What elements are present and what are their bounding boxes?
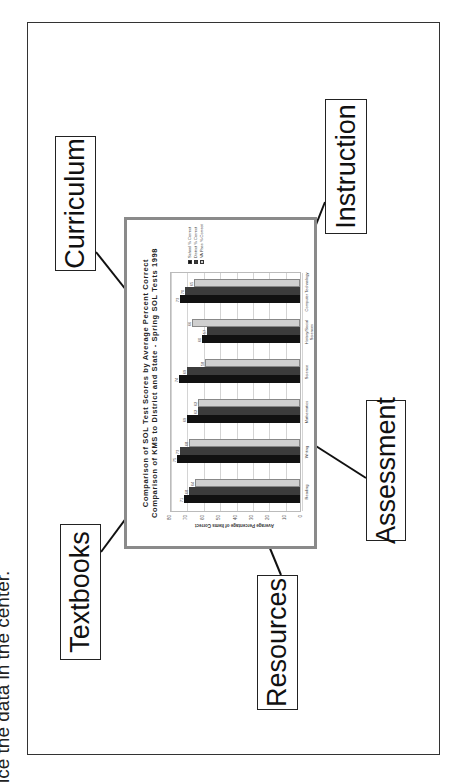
bar-value-label: 62 bbox=[193, 398, 198, 410]
legend-swatch bbox=[188, 260, 192, 264]
gridline bbox=[237, 273, 238, 511]
gridline bbox=[269, 273, 270, 511]
sol-chart: Comparison of SOL Test Scores by Average… bbox=[124, 217, 317, 549]
gridline bbox=[204, 273, 205, 511]
gridline bbox=[220, 273, 221, 511]
category-label: Writing bbox=[304, 432, 309, 472]
textbooks-label: Textbooks bbox=[65, 531, 96, 653]
bar bbox=[205, 359, 300, 367]
bar-value-label: 66 bbox=[187, 318, 192, 330]
bar bbox=[189, 439, 300, 447]
bar-value-label: 74 bbox=[174, 374, 179, 386]
gridline bbox=[171, 273, 172, 511]
bar bbox=[207, 327, 300, 335]
bar-value-label: 57 bbox=[202, 326, 207, 338]
bar bbox=[187, 415, 300, 423]
bar bbox=[195, 479, 300, 487]
bar bbox=[180, 295, 300, 303]
gridline bbox=[302, 273, 303, 511]
bar-value-label: 69 bbox=[182, 414, 187, 426]
chart-title: Comparison of SOL Test Scores by Average… bbox=[141, 220, 150, 546]
bar bbox=[185, 287, 300, 295]
bar-value-label: 68 bbox=[184, 438, 189, 450]
y-tick-label: 50 bbox=[216, 515, 221, 529]
bar-value-label: 73 bbox=[175, 446, 180, 458]
legend-swatch bbox=[200, 260, 204, 264]
category-label: Computer Technology bbox=[304, 272, 309, 312]
slide: ice the data in the center. Curriculum I… bbox=[0, 0, 462, 783]
legend-label: VA Pass % Correct bbox=[199, 224, 205, 258]
bar-value-label: 58 bbox=[200, 358, 205, 370]
resources-box: Resources bbox=[257, 575, 298, 710]
category-label: Science bbox=[304, 352, 309, 392]
chart-subtitle: Comparison of KMS to District and State … bbox=[150, 220, 159, 546]
assessment-label: Assessment bbox=[371, 397, 402, 544]
y-tick-label: 80 bbox=[167, 515, 172, 529]
bar-value-label: 64 bbox=[190, 478, 195, 490]
y-tick-label: 60 bbox=[200, 515, 205, 529]
category-label: History/Social Sciences bbox=[304, 312, 314, 352]
textbooks-box: Textbooks bbox=[60, 524, 101, 660]
bar bbox=[198, 407, 300, 415]
curriculum-label: Curriculum bbox=[60, 138, 91, 269]
y-tick-label: 30 bbox=[249, 515, 254, 529]
category-label: Reading bbox=[304, 472, 309, 512]
gridline bbox=[253, 273, 254, 511]
curriculum-box: Curriculum bbox=[55, 136, 96, 271]
bar-value-label: 65 bbox=[189, 278, 194, 290]
legend-item: VA Pass % Correct bbox=[199, 224, 205, 264]
y-tick-label: 40 bbox=[233, 515, 238, 529]
bar-value-label: 70 bbox=[180, 286, 185, 298]
resources-label: Resources bbox=[262, 578, 293, 707]
bar bbox=[198, 399, 300, 407]
gridline bbox=[286, 273, 287, 511]
y-tick-label: 70 bbox=[183, 515, 188, 529]
bar bbox=[180, 447, 300, 455]
bar bbox=[194, 279, 300, 287]
chart-legend: School % CorrectDistrict % CorrectVA Pas… bbox=[187, 224, 205, 264]
bar-value-label: 68 bbox=[184, 486, 189, 498]
assessment-box: Assessment bbox=[366, 400, 406, 541]
bar bbox=[179, 375, 300, 383]
gridline bbox=[187, 273, 188, 511]
bar bbox=[192, 319, 300, 327]
instruction-label: Instruction bbox=[331, 104, 362, 229]
bar bbox=[189, 487, 300, 495]
legend-swatch bbox=[194, 260, 198, 264]
category-label: Mathematics bbox=[304, 392, 309, 432]
y-tick-label: 20 bbox=[265, 515, 270, 529]
y-tick-label: 10 bbox=[282, 515, 287, 529]
instruction-box: Instruction bbox=[325, 99, 367, 234]
bar-value-label: 69 bbox=[182, 366, 187, 378]
bar bbox=[184, 495, 300, 503]
plot-area bbox=[170, 272, 301, 512]
y-tick-label: 0 bbox=[298, 515, 303, 529]
bar bbox=[177, 455, 300, 463]
bar bbox=[202, 335, 300, 343]
